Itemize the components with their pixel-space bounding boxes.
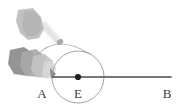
diagram-canvas: A E B (0, 0, 190, 111)
point-label-a: A (37, 86, 47, 101)
point-marker-e (75, 74, 81, 80)
point-label-b: B (163, 86, 172, 101)
point-label-e: E (74, 86, 82, 101)
geometry-figure: A E B (0, 0, 190, 111)
